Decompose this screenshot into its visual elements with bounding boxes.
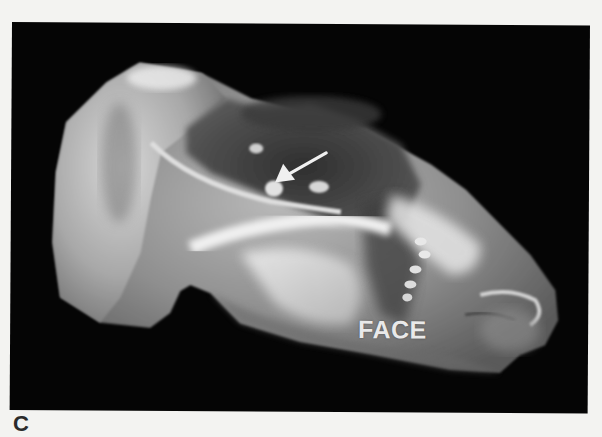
panel-label: C — [13, 411, 29, 437]
face-label: FACE — [358, 315, 427, 344]
ultrasound-image: FACE — [10, 22, 590, 414]
figure-panel: FACE C — [0, 0, 602, 437]
arrow-icon — [10, 22, 590, 414]
